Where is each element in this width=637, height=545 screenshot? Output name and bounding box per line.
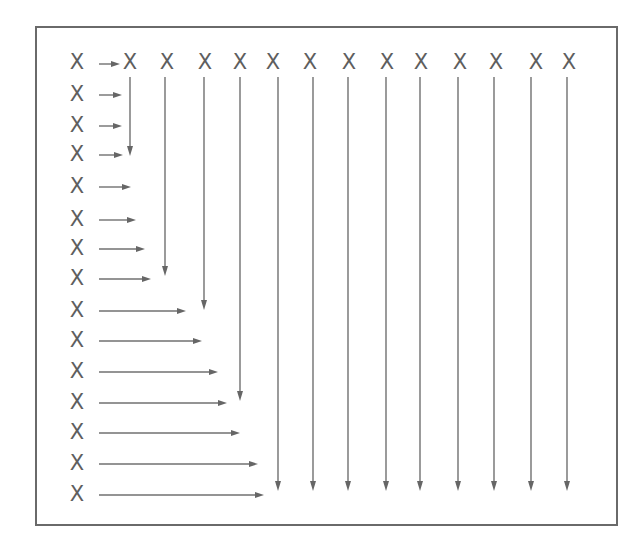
x-mark: X	[489, 50, 503, 74]
right-arrow-icon	[99, 369, 218, 375]
x-mark: X	[70, 328, 84, 352]
down-arrow-icon	[201, 77, 207, 310]
down-arrow-icon	[237, 77, 243, 401]
x-mark: X	[380, 50, 394, 74]
x-mark: X	[70, 82, 84, 106]
down-arrow-icon	[455, 77, 461, 491]
horizontal-arrows	[99, 61, 264, 498]
x-mark: X	[562, 50, 576, 74]
x-mark: X	[414, 50, 428, 74]
x-mark: X	[123, 50, 137, 74]
right-arrow-icon	[99, 246, 145, 252]
right-arrow-icon	[99, 492, 264, 498]
right-arrow-icon	[99, 430, 240, 436]
right-arrow-icon	[99, 217, 136, 223]
right-arrow-icon	[99, 276, 151, 282]
x-mark: X	[233, 50, 247, 74]
down-arrow-icon	[528, 77, 534, 491]
right-arrow-icon	[99, 123, 122, 129]
x-mark: X	[266, 50, 280, 74]
x-mark: X	[70, 420, 84, 444]
x-mark: X	[453, 50, 467, 74]
x-mark: X	[342, 50, 356, 74]
left-column-marks: XXXXXXXXXXXXXX	[70, 82, 84, 506]
x-mark: X	[70, 207, 84, 231]
x-mark: X	[70, 142, 84, 166]
x-mark: X	[303, 50, 317, 74]
down-arrow-icon	[383, 77, 389, 491]
right-arrow-icon	[99, 461, 258, 467]
down-arrow-icon	[345, 77, 351, 491]
down-arrow-icon	[127, 77, 133, 156]
down-arrow-icon	[275, 77, 281, 491]
right-arrow-icon	[99, 184, 131, 190]
top-row-marks: XXXXXXXXXXXXXX	[70, 50, 576, 74]
x-mark: X	[70, 113, 84, 137]
down-arrow-icon	[564, 77, 570, 491]
right-arrow-icon	[99, 61, 120, 67]
x-mark: X	[70, 482, 84, 506]
x-mark: X	[70, 298, 84, 322]
x-mark: X	[70, 390, 84, 414]
x-mark: X	[70, 359, 84, 383]
flow-diagram: XXXXXXXXXXXXXX XXXXXXXXXXXXXX	[0, 0, 637, 545]
right-arrow-icon	[99, 92, 122, 98]
right-arrow-icon	[99, 152, 123, 158]
right-arrow-icon	[99, 308, 186, 314]
x-mark: X	[198, 50, 212, 74]
x-mark: X	[529, 50, 543, 74]
x-mark: X	[70, 266, 84, 290]
right-arrow-icon	[99, 338, 202, 344]
down-arrow-icon	[417, 77, 423, 491]
down-arrow-icon	[310, 77, 316, 491]
x-mark: X	[70, 236, 84, 260]
diagram-frame	[36, 27, 617, 525]
x-mark: X	[160, 50, 174, 74]
down-arrow-icon	[162, 77, 168, 276]
x-mark: X	[70, 50, 84, 74]
x-mark: X	[70, 451, 84, 475]
right-arrow-icon	[99, 400, 227, 406]
vertical-arrows	[127, 77, 570, 491]
x-mark: X	[70, 174, 84, 198]
down-arrow-icon	[491, 77, 497, 491]
